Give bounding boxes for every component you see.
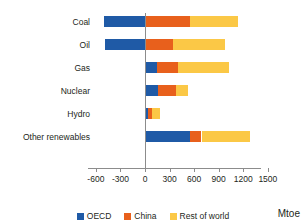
bar-row-hydro: [0, 108, 306, 119]
x-axis-tick-1500: [268, 168, 269, 172]
legend-label-rest-of-world: Rest of world: [180, 211, 230, 221]
bar-row-other-renewables: [0, 131, 306, 142]
x-axis-tick-label-300: 300: [162, 174, 176, 184]
bar-row-nuclear: [0, 85, 306, 96]
x-axis-tick-label--300: -300: [112, 174, 129, 184]
x-axis-tick--300: [120, 168, 121, 172]
x-axis-tick-label-1200: 1200: [234, 174, 253, 184]
x-axis-tick-600: [194, 168, 195, 172]
bar-segment-nuclear-oecd: [145, 85, 158, 96]
x-axis-tick-0: [145, 168, 146, 172]
x-axis-tick-label-600: 600: [187, 174, 201, 184]
legend-item-oecd: OECD: [77, 211, 112, 221]
legend-swatch-rest-of-world-icon: [170, 213, 177, 220]
legend-label-china: China: [134, 211, 156, 221]
legend-swatch-china-icon: [124, 213, 131, 220]
bar-segment-other-renewables-china: [190, 131, 201, 142]
legend-item-china: China: [124, 211, 156, 221]
x-axis-line: [88, 168, 261, 169]
x-axis-tick--600: [96, 168, 97, 172]
chart-legend: OECD China Rest of world: [0, 211, 306, 221]
bar-segment-gas-china: [157, 62, 177, 73]
x-axis-tick-1200: [243, 168, 244, 172]
bar-segment-other-renewables-rest-of-world: [202, 131, 250, 142]
bar-segment-oil-china: [145, 39, 173, 50]
x-axis-tick-label-1500: 1500: [258, 174, 277, 184]
x-axis-tick-label-900: 900: [212, 174, 226, 184]
bar-segment-other-renewables-oecd: [145, 131, 190, 142]
bar-segment-coal-oecd: [104, 16, 145, 27]
bar-segment-gas-rest-of-world: [178, 62, 229, 73]
legend-swatch-oecd-icon: [77, 213, 84, 220]
zero-axis-line: [145, 13, 146, 168]
legend-item-rest-of-world: Rest of world: [170, 211, 230, 221]
x-axis-tick-label-0: 0: [143, 174, 148, 184]
bar-row-coal: [0, 16, 306, 27]
bar-segment-gas-oecd: [145, 62, 157, 73]
plot-area: Coal Oil Gas Nuclear Hydro Other renewab…: [0, 0, 306, 223]
stacked-bar-chart: Coal Oil Gas Nuclear Hydro Other renewab…: [0, 0, 306, 223]
bar-segment-coal-china: [145, 16, 190, 27]
bar-segment-hydro-rest-of-world: [152, 108, 159, 119]
x-axis-tick-900: [219, 168, 220, 172]
bar-segment-coal-rest-of-world: [190, 16, 238, 27]
x-axis-tick-300: [170, 168, 171, 172]
bar-row-gas: [0, 62, 306, 73]
bar-row-oil: [0, 39, 306, 50]
x-axis-tick-label--600: -600: [87, 174, 104, 184]
bar-segment-nuclear-china: [158, 85, 176, 96]
legend-label-oecd: OECD: [87, 211, 112, 221]
bar-segment-nuclear-rest-of-world: [176, 85, 188, 96]
bar-segment-oil-rest-of-world: [173, 39, 225, 50]
bar-segment-oil-oecd: [105, 39, 145, 50]
